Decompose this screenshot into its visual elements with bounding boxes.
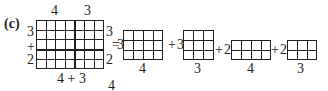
- big-grid: [36, 20, 104, 69]
- term1-grid: [123, 30, 163, 60]
- term2-grid: [183, 30, 214, 60]
- grids: [0, 0, 328, 91]
- term3-grid: [231, 40, 271, 60]
- term4-grid: [287, 40, 317, 60]
